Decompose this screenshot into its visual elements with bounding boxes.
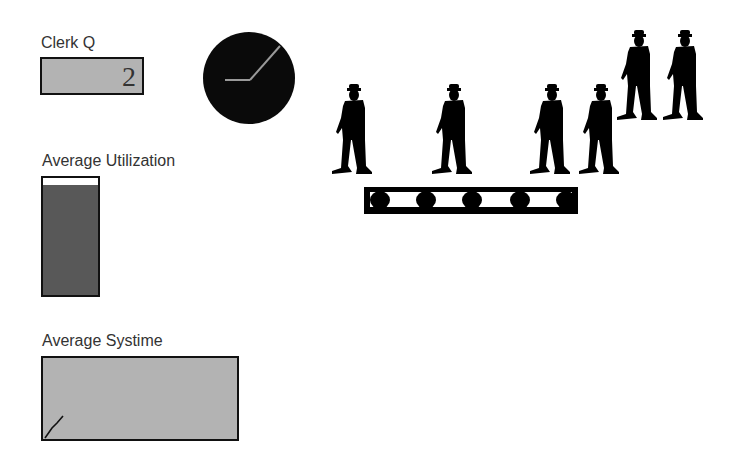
queue-animation	[0, 0, 737, 466]
conveyor	[364, 187, 578, 214]
customer-figure	[332, 84, 372, 174]
